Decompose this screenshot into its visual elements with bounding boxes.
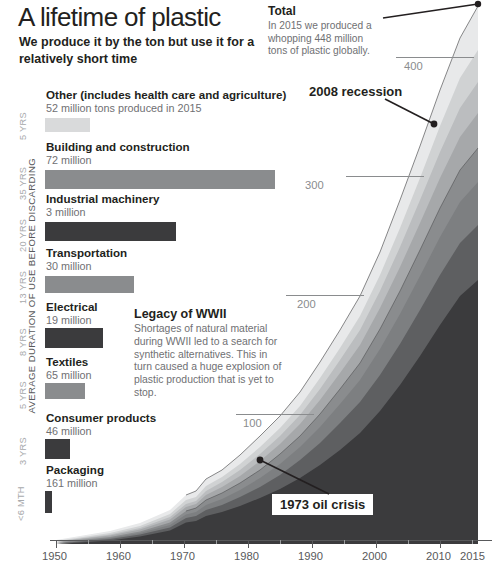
leader-lines [0,0,492,563]
leader-recession [385,99,434,124]
leader-dot-recession [431,121,438,128]
leader-dot-oil [257,457,264,464]
infographic-root: A lifetime of plastic We produce it by t… [0,0,492,563]
leader-oil [260,460,329,494]
leader-total [383,4,478,18]
leader-dot-total [475,1,481,7]
